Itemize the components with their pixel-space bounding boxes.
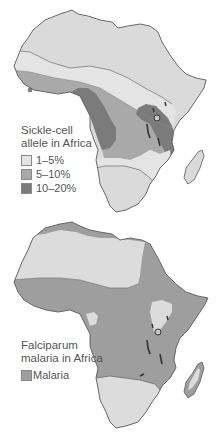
region-10-20-coast (28, 88, 32, 92)
legend-item-malaria: Malaria (21, 369, 103, 382)
malaria-map (0, 218, 218, 437)
legend-label: 5–10% (36, 168, 70, 181)
legend-item-10-20: 10–20% (21, 182, 92, 195)
legend-title: Sickle-cell allele in Africa (21, 124, 92, 150)
lake-albert (153, 108, 154, 112)
legend-swatch (21, 169, 32, 180)
lake-turkana (167, 316, 168, 320)
region-south-no-malaria (90, 376, 160, 432)
legend-label: 1–5% (36, 154, 64, 167)
madagascar (184, 150, 204, 184)
sickle-cell-legend: Sickle-cell allele in Africa 1–5% 5–10% … (21, 124, 92, 196)
legend-title-line: malaria in Africa (21, 352, 103, 365)
legend-swatch (21, 370, 32, 381)
lake-albert (152, 324, 153, 328)
malaria-legend: Falciparum malaria in Africa Malaria (21, 339, 103, 383)
lake-victoria (154, 115, 160, 121)
lake-turkana (165, 102, 166, 106)
legend-title-line: Falciparum (21, 339, 103, 352)
legend-swatch (21, 183, 32, 194)
legend-label: Malaria (33, 369, 69, 382)
legend-item-5-10: 5–10% (21, 168, 92, 181)
legend-title-line: Sickle-cell (21, 124, 92, 137)
legend-title-line: allele in Africa (21, 137, 92, 150)
legend-item-1-5: 1–5% (21, 154, 92, 167)
lake-victoria (155, 329, 161, 335)
legend-title: Falciparum malaria in Africa (21, 339, 103, 365)
legend-label: 10–20% (36, 182, 76, 195)
legend-swatch (21, 155, 32, 166)
